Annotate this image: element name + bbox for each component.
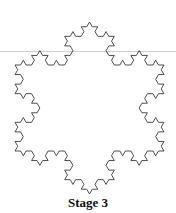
figure-caption: Stage 3 <box>0 195 176 211</box>
koch-snowflake-figure <box>0 0 176 213</box>
koch-snowflake-outline <box>15 22 164 194</box>
